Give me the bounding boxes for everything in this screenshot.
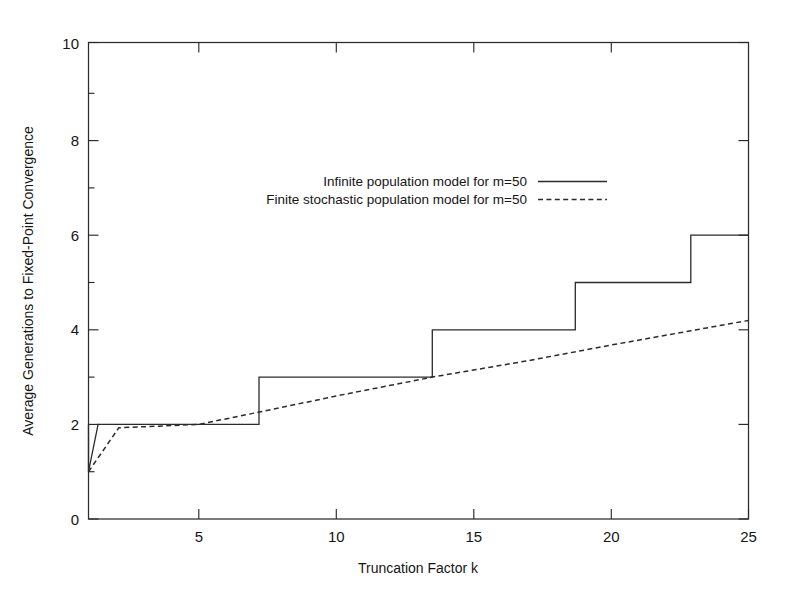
x-tick-label-10: 10 xyxy=(328,528,345,545)
chart-background xyxy=(0,0,795,593)
x-tick-label-5: 5 xyxy=(195,528,203,545)
y-tick-label-2: 2 xyxy=(71,416,79,433)
y-tick-label-0: 0 xyxy=(71,511,79,528)
convergence-line-chart: 0 2 4 6 8 10 5 10 15 20 25 Truncation Fa… xyxy=(0,0,795,593)
y-tick-label-6: 6 xyxy=(71,227,79,244)
y-tick-label-10: 10 xyxy=(62,35,79,52)
legend-label-infinite: Infinite population model for m=50 xyxy=(323,174,527,189)
x-axis-title: Truncation Factor k xyxy=(358,560,479,576)
legend-label-finite: Finite stochastic population model for m… xyxy=(266,192,527,207)
x-tick-label-25: 25 xyxy=(740,528,757,545)
x-tick-label-20: 20 xyxy=(603,528,620,545)
y-axis-title: Average Generations to Fixed-Point Conve… xyxy=(20,126,36,436)
x-tick-label-15: 15 xyxy=(465,528,482,545)
y-tick-label-4: 4 xyxy=(71,321,79,338)
chart-figure: 0 2 4 6 8 10 5 10 15 20 25 Truncation Fa… xyxy=(0,0,795,593)
y-tick-label-8: 8 xyxy=(71,132,79,149)
